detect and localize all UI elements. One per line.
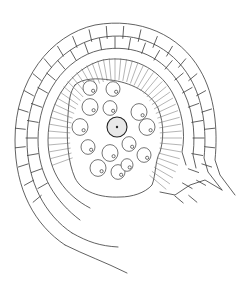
radial-cell-wall [160,143,182,145]
radial-cell-wall [152,171,170,184]
radial-cell-wall [144,77,158,94]
radial-cell-wall [157,158,178,166]
radial-cell-wall [150,87,167,101]
block-cell-wall [27,154,38,156]
cell-nucleolus [131,145,134,148]
block-cell-wall [24,180,33,185]
cell-nucleolus [120,173,123,176]
radial-cell-wall [154,98,173,109]
radial-cell-wall [154,167,173,178]
radial-cell-wall [156,104,176,113]
block-cell-wall [205,128,215,129]
block-cell-wall [202,109,212,112]
block-cell-wall [129,39,131,50]
block-cell-wall [27,121,38,123]
block-cell-wall [138,30,141,42]
radial-cell-wall [150,175,167,189]
radial-cell-wall [123,59,127,81]
block-cell-wall [31,169,41,173]
radial-cell-wall [109,58,111,80]
block-cell-wall [24,91,33,96]
radial-cell-wall [147,81,163,97]
round-cell [83,81,97,96]
cell-nucleolus [115,90,118,93]
block-cell-wall [189,195,197,202]
cell-nucleolus [149,129,152,132]
radial-cell-wall [127,61,133,82]
block-cell-wall [85,43,89,53]
radial-cell-wall [52,111,73,119]
radial-cell-wall [64,87,81,101]
radial-cell-wall [57,98,76,109]
cell-section-illustration [0,0,251,290]
block-cell-wall [15,128,25,129]
round-cell [131,104,147,121]
block-cell-wall [165,61,172,70]
block-cell-wall [89,30,92,42]
round-cell [102,145,118,162]
stalk-right [72,233,118,247]
cell-nucleolus [92,109,95,112]
radial-cell-wall [92,63,100,84]
block-cell-wall [33,195,41,202]
block-cell-wall [192,121,203,123]
central-cavity [67,79,162,197]
radial-cell-wall [68,81,84,97]
block-cell-wall [183,88,193,94]
radial-cell-wall [54,104,74,113]
block-cell-wall [197,91,206,96]
block-cell-wall [123,26,124,38]
block-cell-wall [73,37,77,48]
round-cell [82,99,98,116]
round-cell [72,119,88,136]
cell-nucleolus [92,89,95,92]
cell-nucleolus [100,170,103,173]
radial-cell-wall [48,143,70,145]
block-cell-wall [38,183,48,189]
block-cell-wall [100,39,102,50]
radial-cell-wall [119,58,121,80]
block-cell-wall [15,147,25,148]
block-cell-wall [58,46,64,56]
cell-nucleolus [90,148,93,151]
block-cell-wall [18,109,28,112]
block-cell-wall [154,51,160,61]
radial-cell-wall [159,153,180,159]
nucleus-dot [116,126,118,128]
radial-cell-wall [50,153,71,159]
block-cell-wall [175,196,183,203]
block-cell-wall [188,169,198,173]
outer-wall-inner-edge [27,36,222,233]
block-cell-wall [142,43,146,53]
round-cell [122,137,136,152]
block-cell-wall [175,73,183,80]
block-cell-wall [44,59,51,68]
radial-cell-wall [50,117,71,123]
cell-nucleolus [112,109,115,112]
block-cell-wall [188,104,198,108]
radial-cell-wall [152,92,170,105]
block-cell-wall [18,164,28,167]
stalk-left [65,245,127,273]
block-cell-wall [47,73,55,80]
cavity-cells [72,81,155,180]
radial-cell-wall [138,69,149,88]
block-cell-wall [183,183,193,189]
cell-nucleolus [82,129,85,132]
round-cell [121,159,133,172]
round-cell [139,119,155,136]
block-cell-wall [33,74,41,81]
block-cell-wall [58,61,65,70]
radial-cell-wall [141,73,154,91]
round-cell [90,160,106,177]
cell-nucleolus [141,114,144,117]
radial-cell-wall [49,148,71,152]
round-cell [137,148,151,163]
block-cell-wall [38,88,48,94]
cell-nucleolus [112,155,115,158]
cell-nucleolus [146,156,149,159]
block-cell-wall [205,147,215,148]
radial-cell-wall [134,66,143,86]
radial-cell-wall [103,59,107,81]
block-cell-wall [31,104,41,108]
